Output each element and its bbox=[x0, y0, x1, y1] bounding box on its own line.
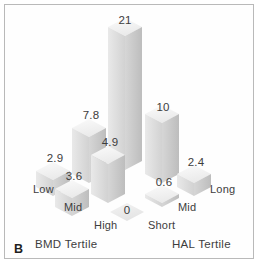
category-label-hal-long: Long bbox=[210, 184, 235, 195]
value-label-low-long: 2.9 bbox=[42, 153, 68, 165]
value-label-mid-mid: 4.9 bbox=[97, 137, 123, 149]
axis-title-hal: HAL Tertile bbox=[172, 239, 231, 251]
category-label-bmd-high: High bbox=[94, 220, 117, 231]
figure-panel-b: 2.9 7.8 21 3.6 4.9 10 0 0.6 2.4 Low Mid … bbox=[0, 0, 258, 263]
value-label-low-mid: 3.6 bbox=[61, 171, 87, 183]
category-label-bmd-low: Low bbox=[33, 184, 54, 195]
panel-label: B bbox=[14, 243, 24, 256]
bar-chart-3d bbox=[0, 0, 258, 263]
category-label-hal-short: Short bbox=[148, 220, 175, 231]
value-label-mid-long: 7.8 bbox=[78, 110, 104, 122]
value-label-high-mid: 10 bbox=[152, 102, 174, 114]
category-label-bmd-mid: Mid bbox=[64, 202, 82, 213]
bar-high-mid bbox=[145, 105, 179, 183]
value-label-high-long: 21 bbox=[114, 15, 136, 27]
axis-title-bmd: BMD Tertile bbox=[35, 239, 98, 251]
bar-high-short bbox=[177, 165, 211, 196]
bar-mid-mid bbox=[91, 146, 125, 203]
value-label-mid-short: 0.6 bbox=[151, 177, 177, 189]
value-label-high-short: 2.4 bbox=[183, 157, 209, 169]
value-label-low-short: 0 bbox=[120, 205, 134, 217]
category-label-hal-mid: Mid bbox=[178, 202, 196, 213]
